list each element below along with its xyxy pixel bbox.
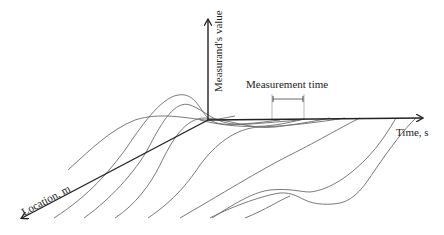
waveform-curve-3: [115, 118, 330, 218]
waveform-curve-6: [180, 118, 360, 218]
time-axis-label: Time, s: [396, 126, 429, 138]
waveform-curves: [54, 95, 416, 218]
waveform-curve-8: [210, 118, 416, 218]
waveform-curve-9: [245, 196, 290, 218]
measurement-time-bracket: [272, 94, 304, 119]
location-axis-label: Location, m: [19, 182, 72, 218]
time-axis: [208, 118, 422, 120]
measurand-diagram: Measurand's value Time, s Location, m Me…: [0, 0, 444, 235]
waveform-curve-1: [54, 95, 300, 218]
measurement-time-label: Measurement time: [246, 78, 328, 90]
vertical-axis-label: Measurand's value: [212, 10, 224, 92]
waveform-curve-7: [212, 118, 396, 218]
